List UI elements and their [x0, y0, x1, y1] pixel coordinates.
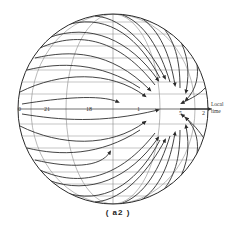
- equator-label-5: 2: [202, 110, 205, 116]
- axis-label-time: time: [211, 109, 221, 115]
- equator-label-2: 18: [86, 106, 92, 112]
- equator-label-1: 21: [44, 106, 50, 112]
- equator-label-3: 1: [137, 106, 140, 112]
- sphere-flow-diagram: [0, 0, 236, 226]
- axis-label-local: Local: [211, 102, 224, 108]
- figure-caption: ( a2 ): [0, 208, 236, 217]
- equator-label-4: 5: [179, 110, 182, 116]
- equator-label-0: 0: [18, 106, 21, 112]
